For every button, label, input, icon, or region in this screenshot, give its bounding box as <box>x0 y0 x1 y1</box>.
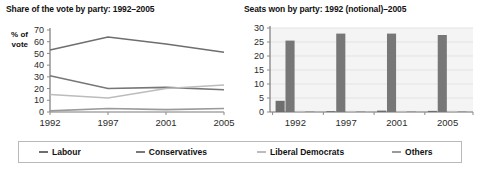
bar-liberal-democrats-1997 <box>346 111 355 112</box>
bar-liberal-democrats-2005 <box>448 111 457 112</box>
line-chart-plot-area: 0102030405060701992199720012005 <box>2 0 228 135</box>
line-chart-y-tick-label: 30 <box>34 72 44 82</box>
legend-item-labour[interactable]: Labour <box>39 147 81 157</box>
bar-others-1997 <box>356 111 365 112</box>
legend-swatch-icon <box>257 151 266 153</box>
legend-item-liberal-democrats[interactable]: Liberal Democrats <box>257 147 344 157</box>
bar-conservatives-1992 <box>285 41 294 112</box>
line-series-conservatives <box>50 76 224 90</box>
legend-swatch-icon <box>39 151 48 153</box>
chart-legend: LabourConservativesLiberal DemocratsOthe… <box>18 141 462 163</box>
bar-conservatives-2001 <box>387 34 396 112</box>
legend-swatch-icon <box>392 151 401 153</box>
bar-conservatives-2005 <box>438 35 447 112</box>
line-chart-y-tick-label: 20 <box>34 84 44 94</box>
legend-item-label: Conservatives <box>149 147 207 157</box>
bar-conservatives-1997 <box>336 34 345 112</box>
bar-labour-1997 <box>326 111 335 112</box>
bar-chart-plot-area: 0510152025301992199720012005 <box>240 0 479 135</box>
line-chart-y-tick-label: 0 <box>39 107 44 117</box>
bar-chart-y-tick-label: 0 <box>259 107 264 117</box>
bar-chart-y-tick-label: 30 <box>254 23 264 33</box>
bar-chart-y-tick-label: 5 <box>259 93 264 103</box>
legend-item-label: Others <box>405 147 432 157</box>
bar-chart-y-tick-label: 20 <box>254 51 264 61</box>
line-chart-x-tick-label: 1997 <box>97 117 118 128</box>
chart-page: Share of the vote by party: 1992–2005 % … <box>0 0 481 170</box>
legend-item-label: Liberal Democrats <box>270 147 344 157</box>
line-series-others <box>50 108 224 110</box>
line-chart-y-tick-label: 40 <box>34 60 44 70</box>
bar-chart-x-tick-label: 2005 <box>437 117 458 128</box>
line-chart-y-tick-label: 50 <box>34 49 44 59</box>
bar-labour-1992 <box>276 101 285 112</box>
bar-chart-y-tick-label: 10 <box>254 79 264 89</box>
line-chart-x-tick-label: 1992 <box>39 117 60 128</box>
bar-chart-y-tick-label: 25 <box>254 37 264 47</box>
bar-labour-2005 <box>428 111 437 112</box>
bar-chart-x-tick-label: 2001 <box>386 117 407 128</box>
line-chart-x-tick-label: 2005 <box>213 117 234 128</box>
bar-chart-y-tick-label: 15 <box>254 65 264 75</box>
bar-chart-svg: 0510152025301992199720012005 <box>240 0 479 135</box>
legend-item-label: Labour <box>52 147 81 157</box>
line-series-liberal-democrats <box>50 85 224 98</box>
line-chart-svg: 0102030405060701992199720012005 <box>2 0 228 135</box>
bar-liberal-democrats-1992 <box>295 111 304 112</box>
legend-swatch-icon <box>136 151 145 153</box>
legend-item-conservatives[interactable]: Conservatives <box>136 147 207 157</box>
bar-others-2001 <box>407 111 416 112</box>
bar-chart-x-tick-label: 1997 <box>336 117 357 128</box>
line-chart-y-tick-label: 60 <box>34 37 44 47</box>
bar-others-2005 <box>458 111 467 112</box>
line-chart-y-tick-label: 10 <box>34 95 44 105</box>
line-series-labour <box>50 37 224 52</box>
line-chart-x-tick-label: 2001 <box>155 117 176 128</box>
legend-item-others[interactable]: Others <box>392 147 432 157</box>
bar-liberal-democrats-2001 <box>397 111 406 112</box>
bar-chart-x-tick-label: 1992 <box>285 117 306 128</box>
bar-labour-2001 <box>377 111 386 112</box>
line-chart-y-tick-label: 70 <box>34 25 44 35</box>
bar-others-1992 <box>305 111 314 112</box>
